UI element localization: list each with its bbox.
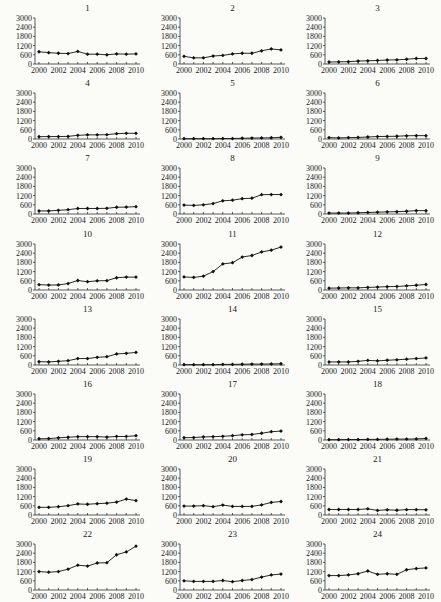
y-tick-label: 2400: [161, 324, 177, 333]
line-chart: 2306001200180024003000200020022004200620…: [145, 528, 295, 602]
data-point-marker: [221, 362, 225, 366]
x-tick-label: 2006: [234, 216, 250, 225]
y-tick-label: 2400: [16, 23, 32, 32]
x-tick-label: 2004: [70, 367, 86, 376]
data-point-marker: [269, 47, 273, 51]
y-tick-label: 2400: [306, 550, 322, 559]
y-tick-label: 3000: [161, 465, 177, 474]
x-tick-label: 2008: [254, 517, 270, 526]
chart-panel-16: 1606001200180024003000200020022004200620…: [0, 378, 147, 453]
y-tick-label: 600: [165, 577, 177, 586]
y-tick-label: 600: [310, 51, 322, 60]
x-tick-label: 2008: [399, 517, 415, 526]
y-tick-label: 600: [310, 427, 322, 436]
x-tick-label: 2008: [109, 141, 125, 150]
data-point-marker: [385, 437, 389, 441]
y-tick-label: 1800: [16, 32, 32, 41]
y-tick-label: 1800: [306, 559, 322, 568]
data-point-marker: [405, 568, 409, 572]
y-tick-label: 2400: [306, 474, 322, 483]
x-tick-label: 2004: [70, 216, 86, 225]
y-tick-label: 2400: [161, 399, 177, 408]
y-tick-label: 1800: [161, 408, 177, 417]
y-tick-label: 2400: [16, 550, 32, 559]
data-point-marker: [47, 135, 51, 139]
axes: [325, 168, 430, 214]
panel-title: 21: [373, 454, 382, 464]
x-tick-label: 2004: [215, 216, 231, 225]
y-tick-label: 600: [165, 51, 177, 60]
x-tick-label: 2002: [340, 442, 356, 451]
data-point-marker: [105, 53, 109, 57]
data-point-marker: [76, 502, 80, 506]
data-point-marker: [231, 52, 235, 56]
y-tick-label: 1200: [306, 267, 322, 276]
axes: [35, 394, 140, 440]
data-point-marker: [134, 132, 138, 136]
x-tick-label: 2006: [89, 216, 105, 225]
panel-title: 14: [228, 304, 238, 314]
axes: [180, 168, 285, 214]
data-point-marker: [47, 209, 51, 213]
data-point-marker: [395, 210, 399, 214]
data-point-marker: [66, 359, 70, 363]
line-chart: 1706001200180024003000200020022004200620…: [145, 378, 295, 453]
x-tick-label: 2000: [31, 292, 47, 301]
chart-panel-17: 1706001200180024003000200020022004200620…: [145, 378, 292, 453]
x-tick-label: 2008: [254, 66, 270, 75]
y-tick-label: 3000: [306, 315, 322, 324]
line-chart: 5060012001800240030002000200220042006200…: [145, 77, 295, 152]
x-tick-label: 2004: [215, 517, 231, 526]
chart-panel-1: 1060012001800240030002000200220042006200…: [0, 2, 147, 77]
y-tick-label: 600: [20, 51, 32, 60]
data-point-marker: [385, 210, 389, 214]
y-tick-label: 600: [20, 352, 32, 361]
x-tick-label: 2004: [360, 442, 376, 451]
x-tick-label: 2004: [360, 141, 376, 150]
data-point-marker: [231, 362, 235, 366]
y-tick-label: 2400: [161, 550, 177, 559]
data-point-marker: [221, 503, 225, 507]
data-point-marker: [211, 505, 215, 509]
data-point-marker: [395, 284, 399, 288]
data-point-marker: [376, 59, 380, 63]
data-point-marker: [279, 193, 283, 197]
data-point-marker: [182, 275, 186, 279]
data-point-marker: [356, 438, 360, 442]
data-point-marker: [202, 203, 206, 207]
x-tick-label: 2010: [128, 592, 144, 601]
data-point-marker: [76, 435, 80, 439]
line-chart: 1906001200180024003000200020022004200620…: [0, 453, 150, 528]
x-tick-label: 2008: [254, 141, 270, 150]
x-tick-label: 2002: [50, 367, 66, 376]
data-point-marker: [356, 359, 360, 363]
axes: [35, 93, 140, 139]
data-point-marker: [202, 274, 206, 278]
data-point-marker: [269, 573, 273, 577]
data-point-marker: [37, 50, 41, 54]
x-tick-label: 2008: [399, 592, 415, 601]
y-tick-label: 1200: [16, 342, 32, 351]
x-tick-label: 2006: [379, 592, 395, 601]
x-tick-label: 2010: [128, 442, 144, 451]
y-tick-label: 3000: [306, 465, 322, 474]
axes: [325, 319, 430, 365]
x-tick-label: 2000: [31, 141, 47, 150]
data-point-marker: [405, 57, 409, 61]
panel-title: 15: [373, 304, 383, 314]
x-tick-label: 2006: [89, 292, 105, 301]
x-tick-label: 2006: [89, 66, 105, 75]
data-point-marker: [260, 49, 264, 53]
y-tick-label: 600: [165, 126, 177, 135]
y-tick-label: 600: [165, 201, 177, 210]
axes: [180, 319, 285, 365]
y-tick-label: 2400: [16, 174, 32, 183]
data-point-marker: [250, 505, 254, 509]
x-tick-label: 2008: [254, 292, 270, 301]
chart-panel-2: 2060012001800240030002000200220042006200…: [145, 2, 292, 77]
panel-title: 2: [230, 3, 235, 13]
x-tick-label: 2006: [89, 592, 105, 601]
x-tick-label: 2000: [31, 517, 47, 526]
data-point-marker: [95, 435, 99, 439]
data-point-marker: [57, 436, 61, 440]
